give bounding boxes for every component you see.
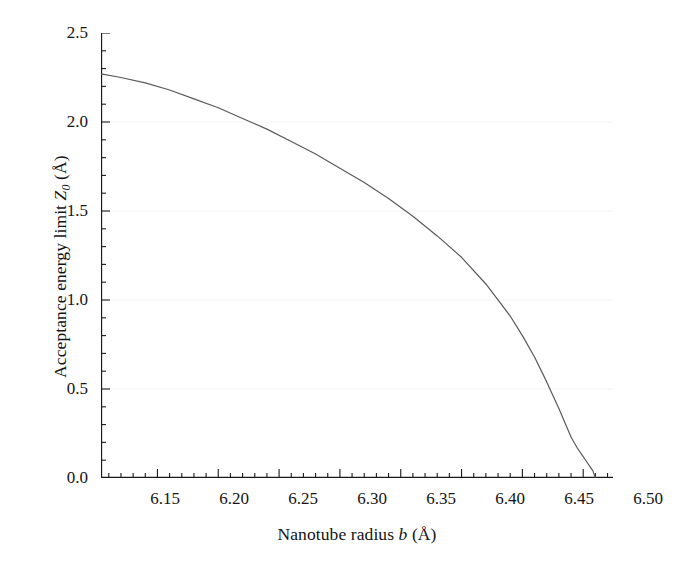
data-series-line	[101, 74, 595, 478]
y-axis-title-subscript: 0	[59, 184, 73, 190]
y-axis-title-suffix: (Å)	[50, 155, 70, 184]
y-tick-label-4: 2.0	[42, 112, 88, 132]
x-tick-label-3: 6.30	[337, 489, 407, 509]
x-axis-title-prefix: Nanotube radius	[277, 524, 398, 544]
y-tick-label-1: 0.5	[42, 379, 88, 399]
gridlines	[101, 122, 613, 389]
x-tick-label-1: 6.20	[199, 489, 269, 509]
x-tick-label-4: 6.35	[406, 489, 476, 509]
x-tick-label-0: 6.15	[130, 489, 200, 509]
figure-container: Acceptance energy limit Z0 (Å) Nanotube …	[0, 0, 679, 566]
plot-svg	[101, 33, 613, 478]
x-tick-label-7: 6.50	[613, 489, 679, 509]
x-axis-title-suffix: (Å)	[407, 524, 436, 544]
y-tick-label-0: 0.0	[42, 468, 88, 488]
x-tick-label-2: 6.25	[268, 489, 338, 509]
y-tick-label-2: 1.0	[42, 290, 88, 310]
y-tick-label-3: 1.5	[42, 201, 88, 221]
x-tick-label-5: 6.40	[475, 489, 545, 509]
axis-spines	[101, 33, 613, 478]
y-tick-label-5: 2.5	[42, 23, 88, 43]
x-tick-label-6: 6.45	[544, 489, 614, 509]
tick-marks	[101, 33, 608, 478]
x-axis-title: Nanotube radius b (Å)	[101, 524, 613, 545]
y-axis-title-variable: Z	[50, 191, 70, 201]
plot-area	[101, 33, 613, 478]
